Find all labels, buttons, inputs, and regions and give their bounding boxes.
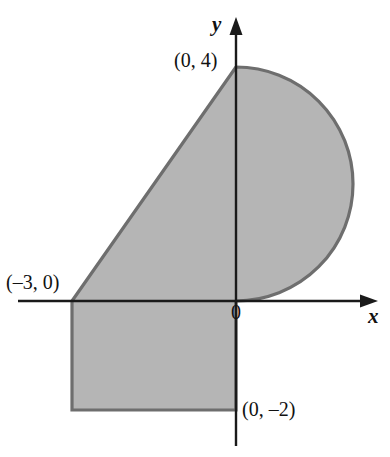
- label-point-neg3-0: (–3, 0): [6, 272, 59, 292]
- shaded-region-rectangle: [72, 301, 236, 410]
- label-axis-x: x: [368, 306, 379, 327]
- label-axis-y: y: [212, 14, 221, 35]
- label-point-0-neg2: (0, –2): [242, 399, 295, 419]
- y-axis-arrow-icon: [230, 17, 243, 35]
- figure-coordinate-plane: (0, 4) (–3, 0) (0, –2) 0 x y: [0, 0, 390, 457]
- label-point-0-4: (0, 4): [174, 50, 217, 70]
- label-origin: 0: [231, 302, 241, 322]
- shaded-region-group: [72, 67, 353, 410]
